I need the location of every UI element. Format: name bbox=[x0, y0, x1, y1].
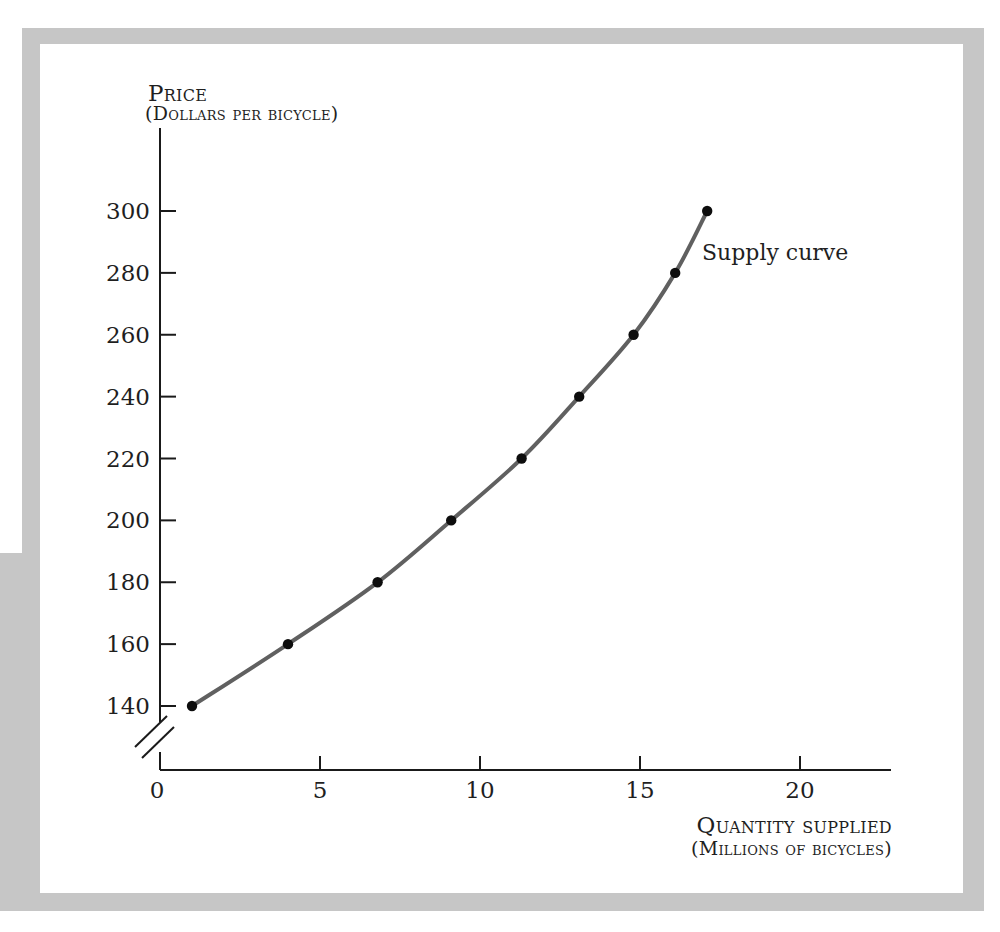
y-tick-label: 220 bbox=[88, 446, 150, 472]
x-tick-label: 0 bbox=[135, 777, 179, 803]
data-points bbox=[187, 206, 713, 711]
x-tick-label: 20 bbox=[778, 777, 822, 803]
y-tick-label: 300 bbox=[88, 198, 150, 224]
x-axis-title: Quantity supplied bbox=[560, 812, 892, 838]
y-axis-subtitle: (Dollars per bicycle) bbox=[145, 102, 339, 124]
x-tick-label: 5 bbox=[298, 777, 342, 803]
textbook-figure-page: Price (Dollars per bicycle) Quantity sup… bbox=[0, 0, 1000, 932]
x-tick-label: 10 bbox=[458, 777, 502, 803]
y-tick-label: 200 bbox=[88, 507, 150, 533]
y-tick-label: 180 bbox=[88, 569, 150, 595]
x-axis-subtitle: (Millions of bicycles) bbox=[560, 837, 892, 859]
supply-curve-line bbox=[192, 211, 707, 706]
axes-layer bbox=[135, 128, 891, 770]
y-tick-label: 280 bbox=[88, 260, 150, 286]
y-tick-label: 240 bbox=[88, 384, 150, 410]
y-tick-label: 140 bbox=[88, 693, 150, 719]
x-tick-label: 15 bbox=[618, 777, 662, 803]
y-tick-label: 260 bbox=[88, 322, 150, 348]
y-tick-label: 160 bbox=[88, 631, 150, 657]
curve-label: Supply curve bbox=[702, 240, 848, 265]
